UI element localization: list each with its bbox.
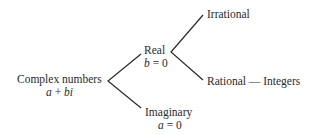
- root-branch-lines: [108, 54, 141, 108]
- condition-eq: = 0: [150, 57, 168, 69]
- real-node-label: Real: [144, 44, 165, 56]
- root-node-label: Complex numbers: [17, 73, 102, 85]
- rational-integers-node-label: Rational — Integers: [207, 75, 300, 87]
- condition-eq: = 0: [164, 119, 182, 131]
- real-branch-lines: [171, 15, 203, 80]
- irrational-node-label: Irrational: [207, 8, 250, 20]
- imaginary-node-label: Imaginary: [145, 106, 192, 118]
- formula-bi: bi: [64, 86, 73, 98]
- formula-plus: +: [52, 86, 64, 98]
- imaginary-node-condition: a = 0: [158, 119, 182, 131]
- root-node-formula: a + bi: [46, 86, 73, 98]
- real-node-condition: b = 0: [144, 57, 168, 69]
